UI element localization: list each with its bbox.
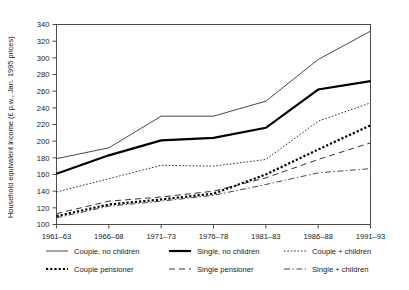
y-axis-ticks: 100120140160180200220240260280300320340 — [37, 20, 57, 229]
plot-border — [57, 25, 371, 225]
x-tick-label: 1961–63 — [42, 232, 72, 241]
y-tick-label: 260 — [37, 87, 50, 96]
y-tick-label: 160 — [37, 170, 50, 179]
legend-label[interactable]: Single pensioner — [197, 265, 254, 274]
y-tick-label: 300 — [37, 54, 50, 63]
series-line — [57, 31, 371, 159]
y-tick-label: 140 — [37, 187, 50, 196]
x-tick-label: 1966–68 — [94, 232, 124, 241]
plot-frame — [57, 25, 371, 225]
y-tick-label: 100 — [37, 220, 50, 229]
x-axis-ticks: 1961–631966–681971–731976–781981–831986–… — [42, 225, 386, 241]
series-line — [57, 125, 371, 216]
series-line — [57, 143, 371, 214]
y-tick-label: 120 — [37, 204, 50, 213]
legend-label[interactable]: Single + children — [312, 265, 368, 274]
y-tick-label: 240 — [37, 104, 50, 113]
y-tick-label: 340 — [37, 20, 50, 29]
legend-label[interactable]: Couple, no children — [74, 247, 139, 256]
x-tick-label: 1991–93 — [356, 232, 386, 241]
y-axis-title: Household equivalent income (£ p.w., Jan… — [6, 36, 15, 218]
y-tick-label: 220 — [37, 120, 50, 129]
chart-figure: Household equivalent income (£ p.w., Jan… — [0, 0, 409, 290]
chart-legend: Couple, no childrenSingle, no childrenCo… — [46, 247, 371, 274]
y-tick-label: 180 — [37, 154, 50, 163]
y-tick-label: 200 — [37, 137, 50, 146]
legend-label[interactable]: Couple pensioner — [74, 265, 134, 274]
y-tick-label: 280 — [37, 70, 50, 79]
series-line — [57, 169, 371, 218]
legend-label[interactable]: Couple + children — [312, 247, 371, 256]
y-axis-title-text: Household equivalent income (£ p.w., Jan… — [6, 36, 15, 218]
legend-label[interactable]: Single, no children — [197, 247, 259, 256]
series-line — [57, 81, 371, 174]
x-tick-label: 1976–78 — [199, 232, 229, 241]
series-lines — [57, 31, 371, 218]
x-tick-label: 1971–73 — [146, 232, 176, 241]
line-chart: Household equivalent income (£ p.w., Jan… — [0, 0, 409, 290]
y-tick-label: 320 — [37, 37, 50, 46]
x-tick-label: 1981–83 — [251, 232, 281, 241]
x-tick-label: 1986–88 — [303, 232, 333, 241]
